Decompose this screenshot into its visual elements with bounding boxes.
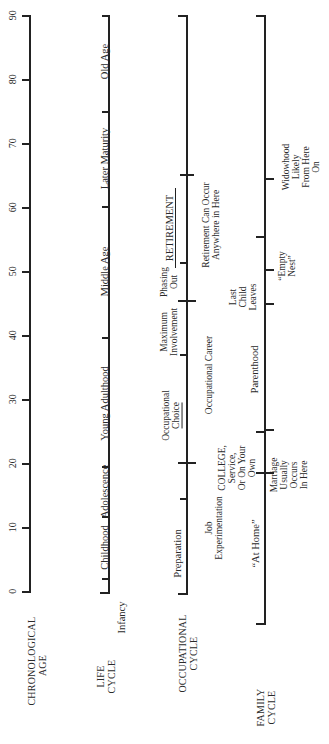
age-axis-tick-label: 70 [8, 134, 19, 152]
age-axis-tick-label: 50 [8, 262, 19, 280]
heading-line: LIFE [96, 652, 107, 702]
occupational-tick [178, 593, 188, 595]
heading-line: OCCUPATIONAL [178, 609, 189, 699]
family-tick [256, 15, 266, 17]
stage-young-adulthood: Young Adulthood [99, 352, 110, 456]
age-axis-tick-label: 0 [8, 582, 19, 600]
label-line: On [312, 127, 322, 207]
age-axis-tick [22, 143, 30, 145]
age-axis-line [29, 15, 31, 593]
stage-empty-nest: “Empty Nest” [278, 244, 298, 288]
family-tick [264, 269, 274, 271]
age-axis-tick [22, 207, 30, 209]
label-line: Choice [172, 402, 183, 429]
life-cycle-tick [102, 15, 110, 17]
family-cycle-line [264, 15, 266, 624]
occupational-cycle-heading: OCCUPATIONAL CYCLE [178, 609, 199, 699]
age-axis-tick-label: 40 [8, 326, 19, 344]
stage-maximum-involvement: Maximum Involvement [160, 297, 180, 367]
stage-later-maturity: Later Maturity [99, 114, 110, 204]
label-line: Anywhere in Here [212, 175, 222, 275]
stage-middle-age: Middle Age [99, 234, 110, 310]
life-cycle-tick [102, 337, 110, 339]
stage-preparation: Preparation [172, 519, 183, 589]
life-cycle-heading: LIFE CYCLE [96, 652, 117, 702]
stage-parenthood: Parenthood [249, 335, 260, 405]
chronological-age-heading: CHRONOLOGICAL AGE [27, 626, 48, 706]
age-axis-tick-label: 20 [8, 454, 19, 472]
stage-at-home: “At Home” [250, 514, 261, 574]
age-axis-tick-label: 80 [8, 70, 19, 88]
occupational-tick [178, 462, 196, 464]
age-axis-tick [22, 527, 30, 529]
family-cycle-heading: FAMILY CYCLE [256, 680, 277, 736]
stage-last-child-leaves: Last Child Leaves [229, 275, 259, 319]
stage-retirement: RETIREMENT [164, 188, 176, 268]
label-line: Leaves [249, 275, 259, 319]
label-line: Involvement [170, 297, 180, 367]
age-axis-tick-label: 10 [8, 518, 19, 536]
occupational-tick [180, 354, 188, 356]
stage-marriage: Marriage Usually Occurs In Here [270, 447, 310, 503]
heading-line: AGE [37, 626, 48, 706]
age-axis-tick-label: 90 [8, 6, 19, 24]
heading-line: FAMILY [256, 680, 267, 736]
stage-childhood: Childhood [99, 516, 110, 580]
stage-widowhood: Widowhood Likely From Here On [282, 127, 322, 207]
life-cycle-tick [100, 592, 110, 594]
family-tick [256, 431, 266, 433]
family-tick [256, 623, 266, 625]
occupational-career-label: Occupational Career [205, 320, 215, 430]
stage-infancy: Infancy [116, 593, 127, 643]
label-line: Own [248, 438, 258, 498]
age-axis-tick [22, 399, 30, 401]
occupational-tick [178, 300, 196, 302]
occupational-tick [180, 262, 188, 264]
life-stage-diagram: 0102030405060708090 CHRONOLOGICAL AGE Ol… [0, 0, 329, 744]
stage-college-service: COLLEGE, Service, Or On Your Own [218, 438, 258, 498]
label-line: Nest” [288, 244, 298, 288]
age-axis-tick [22, 335, 30, 337]
age-axis-tick-label: 30 [8, 390, 19, 408]
age-axis-tick [22, 591, 30, 593]
occupational-tick [180, 498, 188, 500]
family-tick [264, 178, 274, 180]
age-axis-tick [22, 271, 30, 273]
occupational-tick [180, 174, 194, 176]
age-axis-tick [22, 79, 30, 81]
heading-line: CYCLE [266, 680, 277, 736]
family-tick [264, 303, 274, 305]
heading-line: CYCLE [106, 652, 117, 702]
stage-retirement-can-occur: Retirement Can Occur Anywhere in Here [202, 175, 222, 275]
occupational-tick [178, 15, 188, 17]
stage-occupational-choice: Occupational Choice [162, 383, 183, 447]
stage-old-age: Old Age [99, 32, 110, 92]
age-axis-tick-label: 60 [8, 198, 19, 216]
age-axis-tick [22, 463, 30, 465]
age-axis-tick [22, 15, 30, 17]
heading-line: CHRONOLOGICAL [27, 626, 38, 706]
occupational-cycle-line [186, 15, 188, 595]
heading-line: CYCLE [188, 609, 199, 699]
life-cycle-tick [102, 206, 110, 208]
family-tick [256, 236, 266, 238]
label-line: In Here [300, 447, 310, 503]
